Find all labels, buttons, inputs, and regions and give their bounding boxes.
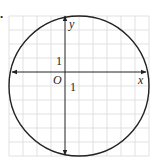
x-unit-label: 1: [70, 80, 76, 94]
x-axis-label: x: [137, 73, 144, 87]
bullet-marker: •: [0, 12, 3, 22]
y-axis-label: y: [68, 17, 75, 31]
coordinate-diagram: y x O 1 1 •: [0, 0, 153, 161]
grid: [9, 16, 149, 156]
y-unit-label: 1: [56, 54, 62, 68]
origin-label: O: [53, 73, 62, 87]
